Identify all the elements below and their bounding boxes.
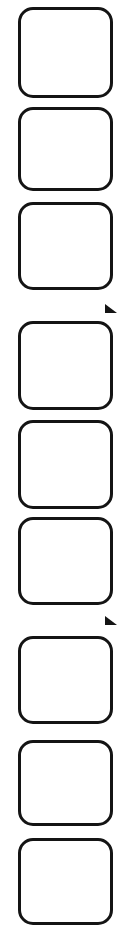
list-item[interactable] bbox=[18, 636, 113, 724]
list-item[interactable] bbox=[18, 740, 113, 826]
list-item[interactable] bbox=[18, 7, 113, 98]
tick-mark-2-icon bbox=[105, 616, 117, 625]
list-item[interactable] bbox=[18, 202, 113, 290]
list-item[interactable] bbox=[18, 838, 113, 925]
list-item[interactable] bbox=[18, 517, 113, 605]
list-item[interactable] bbox=[18, 420, 113, 509]
list-item[interactable] bbox=[18, 321, 113, 410]
box-column-canvas bbox=[0, 0, 136, 938]
tick-mark-1-icon bbox=[105, 304, 117, 313]
list-item[interactable] bbox=[18, 107, 113, 191]
